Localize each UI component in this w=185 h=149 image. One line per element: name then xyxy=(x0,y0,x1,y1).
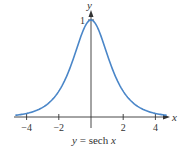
y-tick-label: 1 xyxy=(80,15,85,26)
x-axis-label: x xyxy=(171,111,177,123)
chart-caption: y = sech x xyxy=(71,134,116,146)
y-axis-arrow-icon xyxy=(89,10,94,17)
x-tick-label: 4 xyxy=(153,122,158,133)
sech-chart: x y −4−224 1 y = sech x xyxy=(0,0,185,149)
x-tick-label: 2 xyxy=(121,122,126,133)
y-axis-label: y xyxy=(86,0,92,11)
x-tick-label: −4 xyxy=(21,122,32,133)
x-tick-label: −2 xyxy=(53,122,64,133)
